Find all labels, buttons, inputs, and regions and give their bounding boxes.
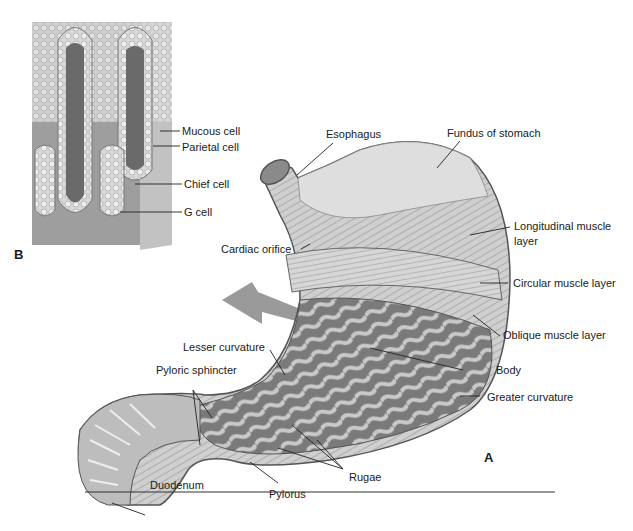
label-parietal-cell: Parietal cell — [182, 141, 239, 154]
label-chief-cell: Chief cell — [184, 178, 229, 191]
label-fundus: Fundus of stomach — [447, 127, 541, 140]
label-longitudinal-muscle: Longitudinal muscle — [514, 220, 611, 233]
label-lesser-curvature: Lesser curvature — [183, 341, 265, 354]
label-pyloric-sphincter: Pyloric sphincter — [156, 364, 237, 377]
panel-letter-b: B — [14, 247, 23, 262]
label-g-cell: G cell — [184, 206, 212, 219]
gastric-gland-block — [32, 22, 172, 250]
label-mucous-cell: Mucous cell — [182, 125, 240, 138]
label-body: Body — [496, 364, 521, 377]
label-greater-curvature: Greater curvature — [487, 391, 573, 404]
label-pylorus: Pylorus — [269, 488, 306, 501]
label-esophagus: Esophagus — [326, 128, 381, 141]
label-longitudinal-muscle-line2: layer — [514, 235, 538, 248]
label-rugae: Rugae — [349, 471, 381, 484]
label-oblique-muscle: Oblique muscle layer — [503, 329, 606, 342]
panel-letter-a: A — [484, 450, 493, 465]
stomach-illustration — [0, 0, 633, 531]
label-cardiac-orifice: Cardiac orifice — [221, 243, 291, 256]
direction-arrow — [222, 282, 300, 324]
label-duodenum: Duodenum — [150, 479, 204, 492]
label-circular-muscle: Circular muscle layer — [513, 277, 616, 290]
